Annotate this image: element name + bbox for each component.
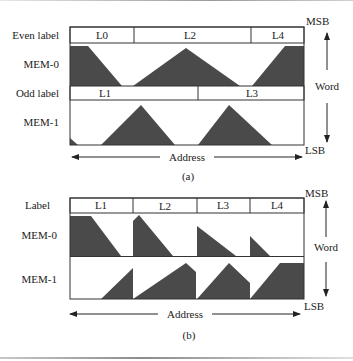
memory-layout-diagram: Even label MEM-0 Odd label MEM-1 L0 L2 L… — [0, 0, 353, 361]
msb-label: MSB — [306, 15, 329, 27]
label-b-L3: L3 — [217, 199, 230, 211]
mem0-blocks-b — [70, 215, 270, 256]
word-label-b: Word — [314, 241, 339, 253]
label-b-L1: L1 — [95, 199, 107, 211]
row-label-mem1: MEM-1 — [24, 116, 59, 128]
label-b-L4: L4 — [271, 199, 284, 211]
row-label-mem0: MEM-0 — [24, 58, 60, 70]
caption-a: (a) — [182, 170, 195, 183]
figure-a: Even label MEM-0 Odd label MEM-1 L0 L2 L… — [12, 15, 339, 183]
row-label-mem1-b: MEM-1 — [22, 273, 57, 285]
label-L0: L0 — [96, 29, 109, 41]
mem1-blocks — [70, 105, 272, 145]
row-label-even: Even label — [12, 29, 59, 41]
figure-b: Label MEM-0 MEM-1 L1 L2 L3 L4 MS — [22, 187, 339, 342]
word-label: Word — [315, 80, 340, 92]
row-label-label: Label — [25, 199, 50, 211]
row-label-odd: Odd label — [16, 87, 59, 99]
msb-label-b: MSB — [305, 187, 328, 199]
label-L2: L2 — [184, 29, 196, 41]
lsb-label: LSB — [305, 144, 325, 156]
mem0-blocks — [70, 46, 304, 86]
label-L1: L1 — [99, 87, 111, 99]
row-label-mem0-b: MEM-0 — [22, 229, 58, 241]
caption-b: (b) — [183, 329, 196, 342]
address-label: Address — [169, 151, 205, 163]
lsb-label-b: LSB — [304, 300, 324, 312]
address-label-b: Address — [167, 308, 203, 320]
label-L4: L4 — [272, 29, 285, 41]
label-b-L2: L2 — [159, 200, 171, 212]
label-L3: L3 — [246, 87, 259, 99]
mem1-blocks-b — [101, 263, 304, 299]
